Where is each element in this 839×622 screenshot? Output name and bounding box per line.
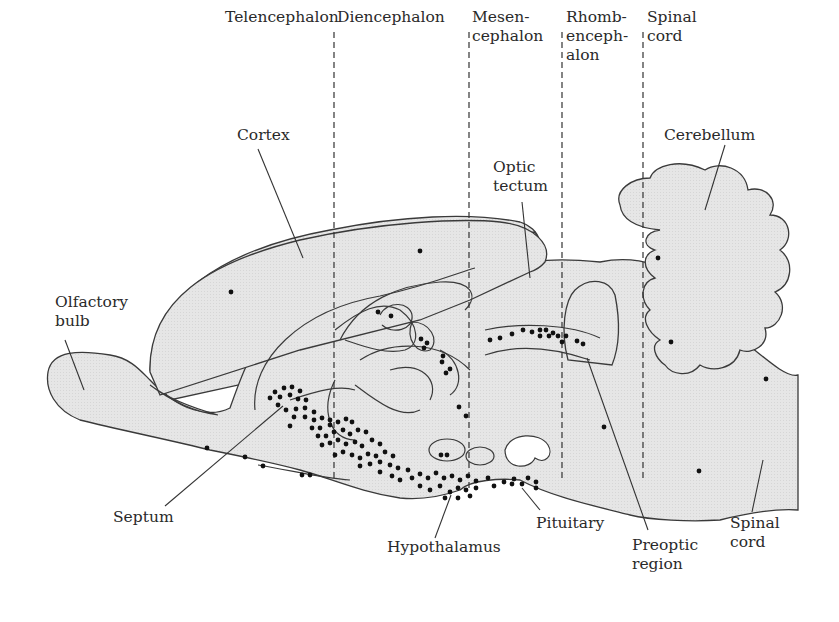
label-olfactory-bulb: Olfactory bulb [55,293,128,331]
label-preoptic-region: Preoptic region [632,536,698,574]
label-cerebellum: Cerebellum [664,126,755,145]
label-septum: Septum [113,508,174,527]
division-label-spinal-cord: Spinal cord [647,8,697,46]
label-pituitary: Pituitary [536,514,604,533]
label-spinal-cord: Spinal cord [730,514,780,552]
label-optic-tectum: Optic tectum [493,158,548,196]
brain-diagram: Telencephalon Diencephalon Mesen- cephal… [0,0,839,622]
division-label-telencephalon: Telencephalon [225,8,339,27]
division-label-diencephalon: Diencephalon [337,8,445,27]
label-cortex: Cortex [237,126,290,145]
label-hypothalamus: Hypothalamus [387,538,501,557]
brain-outline [47,164,798,521]
division-label-rhombencephalon: Rhomb- enceph- alon [566,8,628,65]
division-label-mesencephalon: Mesen- cephalon [472,8,543,46]
